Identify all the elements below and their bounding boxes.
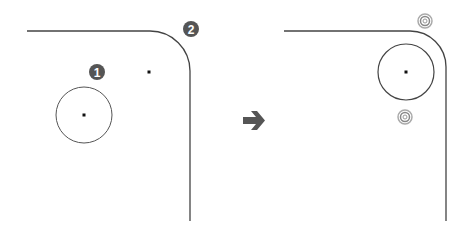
corner-path-before — [27, 31, 190, 221]
circle-center-point-before — [83, 114, 86, 117]
before-panel: 1 2 — [27, 21, 199, 221]
badge-2: 2 — [183, 21, 199, 37]
arrow-right-icon — [243, 111, 265, 130]
circle-center-point-after — [405, 71, 408, 74]
target-point — [148, 71, 151, 74]
corner-path-after — [284, 31, 446, 221]
badge-1-label: 1 — [94, 66, 101, 80]
tangent-marker-icon — [398, 110, 412, 124]
badge-2-label: 2 — [188, 23, 195, 37]
after-panel — [284, 14, 446, 221]
diagram-canvas: 1 2 — [0, 0, 472, 236]
tangent-marker-icon — [418, 14, 432, 28]
badge-1: 1 — [89, 64, 105, 80]
